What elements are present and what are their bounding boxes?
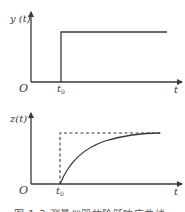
response-curve — [60, 133, 160, 184]
top-y-label: y (t) — [9, 13, 31, 24]
top-t0-label: t0 — [57, 83, 65, 95]
top-x-label: t — [174, 84, 179, 95]
bottom-chart: z(t) O t0 t — [9, 113, 182, 197]
step-response-figure: y (t) O t0 t z(t) O t0 t — [0, 0, 185, 212]
step-input-line — [61, 32, 167, 82]
bottom-t0-label: t0 — [56, 185, 64, 197]
figure-caption: 图 1-3 测量仪器的阶跃响应曲线 — [14, 206, 174, 212]
top-chart: y (t) O t0 t — [9, 12, 182, 95]
bottom-y-label: z(t) — [9, 113, 27, 124]
bottom-origin-label: O — [19, 184, 28, 197]
top-origin-label: O — [19, 82, 28, 95]
bottom-x-label: t — [174, 186, 179, 197]
